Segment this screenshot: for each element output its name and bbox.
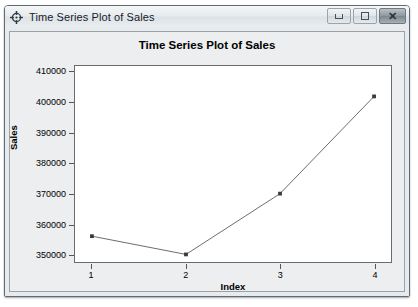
y-tick-label: 400000 bbox=[36, 97, 66, 107]
series-line bbox=[75, 66, 391, 262]
y-tick-label: 350000 bbox=[36, 250, 66, 260]
close-icon: ✕ bbox=[388, 11, 397, 22]
x-tick bbox=[375, 264, 376, 269]
title-bar[interactable]: Time Series Plot of Sales ✕ bbox=[5, 6, 409, 28]
data-point-marker bbox=[184, 253, 188, 257]
maximize-icon bbox=[361, 12, 369, 20]
chart-title: Time Series Plot of Sales bbox=[10, 39, 404, 51]
application-window: Time Series Plot of Sales ✕ Time Series … bbox=[4, 5, 410, 297]
data-line bbox=[92, 96, 374, 254]
window-controls: ✕ bbox=[327, 8, 406, 24]
graph-frame: Time Series Plot of Sales Sales 35000036… bbox=[9, 31, 405, 292]
plot-area bbox=[74, 65, 392, 263]
x-tick-label: 2 bbox=[183, 270, 188, 280]
y-axis-label: Sales bbox=[8, 125, 19, 150]
minimize-icon bbox=[335, 14, 343, 19]
maximize-button[interactable] bbox=[353, 8, 377, 24]
minimize-button[interactable] bbox=[327, 8, 351, 24]
y-tick-label: 360000 bbox=[36, 220, 66, 230]
x-tick bbox=[280, 264, 281, 269]
x-tick-label: 3 bbox=[278, 270, 283, 280]
y-tick-label: 370000 bbox=[36, 189, 66, 199]
x-tick-label: 1 bbox=[89, 270, 94, 280]
data-point-marker bbox=[372, 95, 376, 99]
close-button[interactable]: ✕ bbox=[379, 8, 406, 24]
window-title: Time Series Plot of Sales bbox=[29, 11, 155, 23]
client-area: Time Series Plot of Sales Sales 35000036… bbox=[5, 27, 409, 296]
x-axis-label: Index bbox=[74, 281, 392, 292]
x-tick bbox=[186, 264, 187, 269]
x-tick bbox=[91, 264, 92, 269]
y-tick-label: 380000 bbox=[36, 158, 66, 168]
data-point-marker bbox=[278, 192, 282, 196]
x-tick-label: 4 bbox=[372, 270, 377, 280]
compass-crosshair-icon bbox=[10, 10, 23, 23]
y-tick-label: 390000 bbox=[36, 128, 66, 138]
y-tick-label: 410000 bbox=[36, 66, 66, 76]
data-point-marker bbox=[90, 234, 94, 238]
